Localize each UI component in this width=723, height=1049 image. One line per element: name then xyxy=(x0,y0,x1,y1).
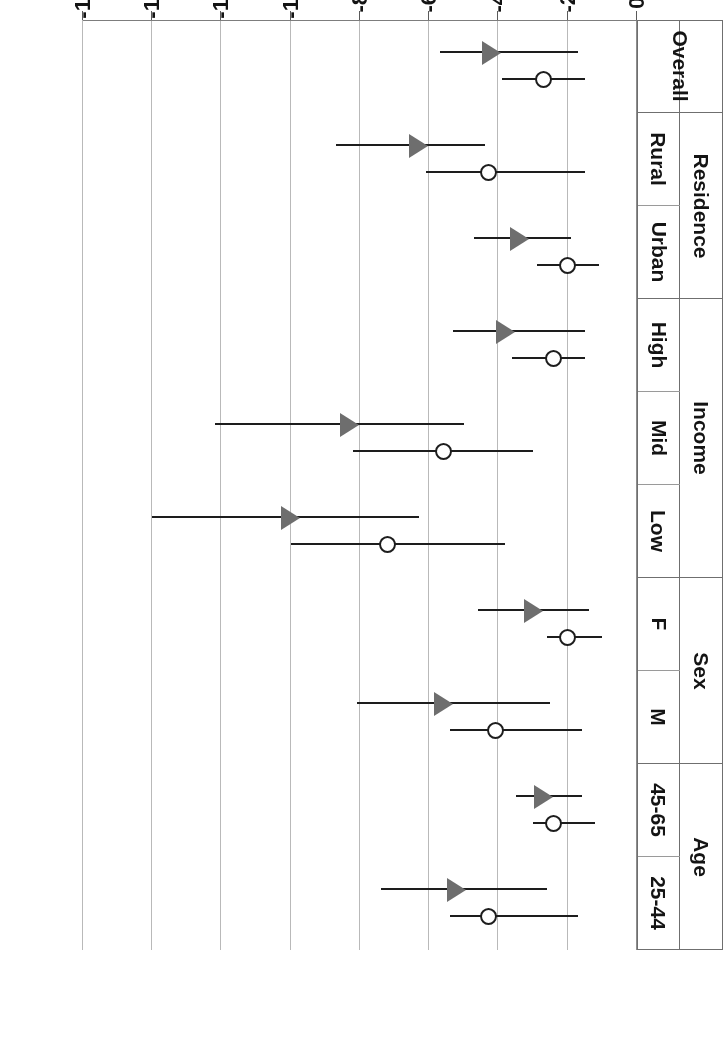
subgroup-label-low: Low xyxy=(637,485,680,578)
subgroup-label-text: M xyxy=(647,709,671,727)
data-point-triangle xyxy=(434,692,453,716)
subgroup-divider xyxy=(637,391,680,392)
group-label-income: Income xyxy=(680,299,723,578)
data-point-triangle xyxy=(281,506,300,530)
group-divider xyxy=(637,298,723,299)
subgroup-label-45-65: 45-65 xyxy=(637,764,680,857)
subgroup-label-text: Low xyxy=(647,511,671,553)
data-point-circle xyxy=(480,164,497,181)
tick-label-0%: 0% xyxy=(624,0,650,33)
data-point-triangle xyxy=(340,413,359,437)
data-point-circle xyxy=(379,536,396,553)
subgroup-label-f: F xyxy=(637,578,680,671)
subgroup-label-text: Urban xyxy=(647,222,671,283)
data-point-circle xyxy=(535,71,552,88)
subgroup-label-text: Rural xyxy=(647,133,671,187)
data-point-circle xyxy=(487,722,504,739)
tick-label--14%: -14% xyxy=(139,0,165,33)
tick-label--10%: -10% xyxy=(278,0,304,33)
plot-area xyxy=(83,20,637,950)
subgroup-label-text: F xyxy=(647,618,671,631)
data-point-circle xyxy=(480,908,497,925)
data-point-triangle xyxy=(534,785,553,809)
group-label-text: Residence xyxy=(690,153,714,258)
subgroup-label-text: 25-44 xyxy=(647,877,671,931)
group-label-text: Income xyxy=(690,402,714,476)
ci-bar xyxy=(450,729,582,731)
ci-bar xyxy=(450,915,578,917)
group-label-sex: Sex xyxy=(680,578,723,764)
data-point-triangle xyxy=(510,227,529,251)
data-point-circle xyxy=(559,257,576,274)
tick-label--4%: -4% xyxy=(486,0,512,33)
figure-stage: Age25-4445-65SexMFIncomeLowMidHighReside… xyxy=(0,0,723,1049)
tick-label--6%: -6% xyxy=(416,0,442,33)
data-point-triangle xyxy=(496,320,515,344)
data-layer xyxy=(83,20,637,950)
subgroup-divider xyxy=(637,670,680,671)
data-point-triangle xyxy=(409,134,428,158)
subgroup-label-m: M xyxy=(637,671,680,764)
data-point-triangle xyxy=(447,878,466,902)
group-label-overall: Overall xyxy=(637,20,723,113)
ci-bar xyxy=(533,822,595,824)
data-point-circle xyxy=(435,443,452,460)
data-point-triangle xyxy=(482,41,501,65)
data-point-circle xyxy=(545,815,562,832)
group-label-text: Overall xyxy=(668,31,692,102)
group-label-text: Age xyxy=(690,837,714,877)
ci-bar xyxy=(291,543,506,545)
group-divider xyxy=(637,577,723,578)
subgroup-label-urban: Urban xyxy=(637,206,680,299)
data-point-triangle xyxy=(524,599,543,623)
tick-label--12%: -12% xyxy=(209,0,235,33)
subgroup-label-text: Mid xyxy=(647,420,671,456)
subgroup-divider xyxy=(637,856,680,857)
subgroup-label-25-44: 25-44 xyxy=(637,857,680,950)
tick-label--16%: -16% xyxy=(70,0,96,33)
data-point-circle xyxy=(545,350,562,367)
subgroup-label-mid: Mid xyxy=(637,392,680,485)
category-axis: Age25-4445-65SexMFIncomeLowMidHighReside… xyxy=(637,20,723,950)
subgroup-label-rural: Rural xyxy=(637,113,680,206)
data-point-circle xyxy=(559,629,576,646)
group-label-residence: Residence xyxy=(680,113,723,299)
subgroup-label-high: High xyxy=(637,299,680,392)
subgroup-label-text: 45-65 xyxy=(647,784,671,838)
subgroup-divider xyxy=(637,205,680,206)
subgroup-divider xyxy=(637,484,680,485)
ci-bar xyxy=(426,171,585,173)
group-label-age: Age xyxy=(680,764,723,950)
group-divider xyxy=(637,763,723,764)
tick-label--8%: -8% xyxy=(347,0,373,33)
subgroup-label-text: High xyxy=(647,322,671,369)
tick-label--2%: -2% xyxy=(555,0,581,33)
group-divider xyxy=(637,112,723,113)
group-label-text: Sex xyxy=(690,652,714,689)
